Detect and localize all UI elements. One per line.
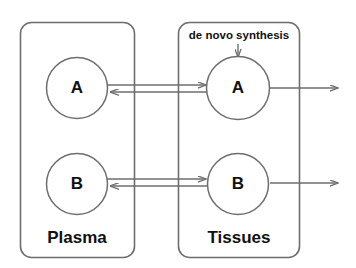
node-label-plasma-a: A: [71, 78, 83, 97]
node-label-tissues-b: B: [232, 174, 244, 193]
annotation-label-de-novo-synthesis: de novo synthesis: [189, 29, 289, 41]
compartment-label-tissues: Tissues: [207, 228, 270, 247]
node-label-plasma-b: B: [71, 174, 83, 193]
node-label-tissues-a: A: [232, 78, 244, 97]
diagram-svg: A B A B de novo synthesis Plasma Tissues: [0, 0, 356, 268]
compartment-label-plasma: Plasma: [47, 228, 107, 247]
diagram-canvas: A B A B de novo synthesis Plasma Tissues: [0, 0, 356, 268]
